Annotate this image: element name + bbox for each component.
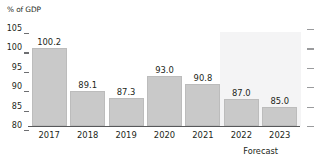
y-tick-80: 80	[0, 126, 30, 136]
x-axis-label-2023: 2023	[260, 130, 300, 141]
y-tick-label: 85	[12, 102, 22, 112]
y-tick-100: 100	[0, 48, 30, 58]
y-tick-right-100	[307, 48, 314, 49]
x-axis-label-2022: 2022	[221, 130, 261, 141]
bar-value-label-2021: 90.8	[183, 73, 223, 83]
bar-value-label-2017: 100.2	[29, 37, 69, 47]
forecast-annotation-label: Forecast	[221, 146, 301, 157]
y-tick-right-95	[307, 68, 314, 69]
bar-value-label-2022: 87.0	[221, 88, 261, 98]
y-tick-right-105	[307, 29, 314, 30]
x-axis-label-2021: 2021	[183, 130, 223, 141]
y-tick-right-85	[307, 107, 314, 108]
bar-2020	[147, 76, 182, 126]
y-axis-unit-label: % of GDP	[7, 5, 41, 14]
bar-value-label-2018: 89.1	[68, 80, 108, 90]
bar-2021	[185, 84, 220, 126]
y-tick-85: 85	[0, 107, 30, 117]
x-axis-label-2019: 2019	[106, 130, 146, 141]
y-tick-dash	[24, 72, 29, 73]
bar-value-label-2019: 87.3	[106, 87, 146, 97]
y-tick-dash	[24, 111, 29, 112]
y-tick-label: 90	[12, 82, 22, 92]
y-tick-95: 95	[0, 68, 30, 78]
bar-chart: % of GDP 10510095908580 100.289.187.393.…	[0, 0, 321, 163]
bar-2023	[262, 107, 297, 126]
x-axis-baseline	[28, 126, 300, 127]
y-tick-label: 105	[7, 24, 22, 34]
y-tick-dash	[24, 33, 29, 34]
bar-value-label-2020: 93.0	[145, 65, 185, 75]
x-axis-label-2017: 2017	[29, 130, 69, 141]
y-tick-label: 95	[12, 63, 22, 73]
bar-2022	[224, 99, 259, 126]
y-tick-label: 80	[12, 121, 22, 131]
y-tick-dash	[24, 52, 29, 53]
y-tick-105: 105	[0, 29, 30, 39]
x-axis-label-2020: 2020	[145, 130, 185, 141]
y-tick-90: 90	[0, 87, 30, 97]
x-axis-label-2018: 2018	[68, 130, 108, 141]
bar-2019	[109, 98, 144, 126]
bar-value-label-2023: 85.0	[260, 96, 300, 106]
y-tick-label: 100	[7, 43, 22, 53]
y-tick-dash	[24, 91, 29, 92]
bar-2018	[70, 91, 105, 126]
bar-2017	[32, 48, 67, 126]
y-tick-right-80	[307, 126, 314, 127]
y-tick-right-90	[307, 87, 314, 88]
